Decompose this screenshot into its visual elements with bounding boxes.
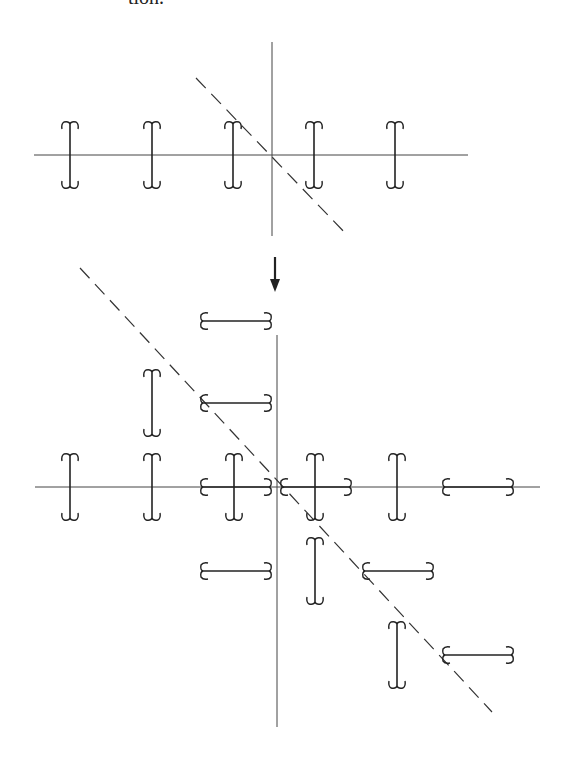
horizontal-bracket <box>443 647 514 664</box>
horizontal-bracket <box>201 563 272 580</box>
transformation-diagram <box>0 0 569 766</box>
dashed-mirror-line <box>80 268 492 712</box>
vertical-bracket <box>389 622 406 689</box>
horizontal-bracket <box>281 479 352 496</box>
horizontal-bracket <box>201 313 272 330</box>
vertical-bracket <box>307 538 324 605</box>
horizontal-bracket <box>201 479 272 496</box>
vertical-bracket <box>144 370 161 437</box>
top-diagram <box>34 42 468 236</box>
arrow-head <box>270 279 280 292</box>
bottom-diagram <box>35 268 540 727</box>
horizontal-bracket <box>201 395 272 412</box>
horizontal-bracket <box>443 479 514 496</box>
horizontal-bracket <box>363 563 434 580</box>
down-arrow-icon <box>270 257 280 292</box>
